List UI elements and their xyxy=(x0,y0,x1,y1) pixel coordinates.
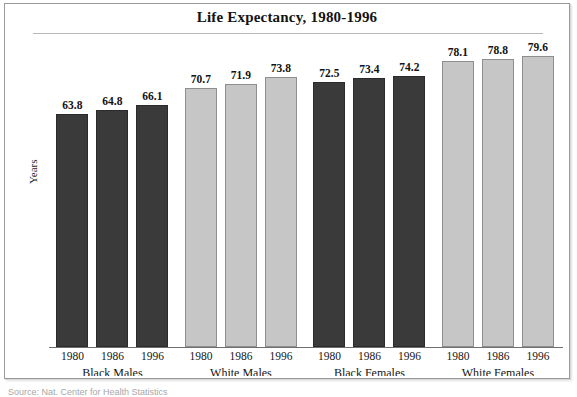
x-tick-label: 1986 xyxy=(96,350,128,362)
bar-value-label: 78.1 xyxy=(438,46,478,58)
y-axis-label: Years xyxy=(27,160,39,184)
x-tick-row: 198019861996 xyxy=(442,350,554,362)
bar[interactable] xyxy=(353,78,385,347)
bar[interactable] xyxy=(482,59,514,347)
bar[interactable] xyxy=(56,114,88,347)
chart-title: Life Expectancy, 1980-1996 xyxy=(5,9,569,26)
title-divider xyxy=(33,33,543,34)
x-tick-label: 1996 xyxy=(393,350,425,362)
x-tick-row: 198019861996 xyxy=(313,350,425,362)
bar[interactable] xyxy=(225,84,257,347)
bar-group-black-females: 72.573.474.2 xyxy=(313,36,425,347)
bar-item[interactable]: 73.4 xyxy=(353,36,385,347)
bar-item[interactable]: 66.1 xyxy=(136,36,168,347)
bar-item[interactable]: 70.7 xyxy=(185,36,217,347)
bar-item[interactable]: 64.8 xyxy=(96,36,128,347)
x-tick-row: 198019861996 xyxy=(185,350,297,362)
bar-value-label: 74.2 xyxy=(389,61,429,73)
x-tick-label: 1996 xyxy=(136,350,168,362)
bar[interactable] xyxy=(185,88,217,347)
bar-value-label: 72.5 xyxy=(309,67,349,79)
bar[interactable] xyxy=(96,110,128,347)
x-tick-row: 198019861996 xyxy=(56,350,168,362)
group-label: White Females xyxy=(442,366,554,381)
x-tick-label: 1986 xyxy=(225,350,257,362)
bar-item[interactable]: 63.8 xyxy=(56,36,88,347)
bar-value-label: 71.9 xyxy=(221,69,261,81)
x-tick-label: 1980 xyxy=(56,350,88,362)
bar-group-black-males: 63.864.866.1 xyxy=(56,36,168,347)
bar[interactable] xyxy=(442,61,474,347)
chart-figure-frame: Life Expectancy, 1980-1996 Years 63.864.… xyxy=(4,3,570,379)
bar-item[interactable]: 79.6 xyxy=(522,36,554,347)
bar-item[interactable]: 72.5 xyxy=(313,36,345,347)
bar-group-white-males: 70.771.973.8 xyxy=(185,36,297,347)
bar[interactable] xyxy=(393,76,425,347)
bar-item[interactable]: 74.2 xyxy=(393,36,425,347)
x-tick-label: 1980 xyxy=(313,350,345,362)
x-tick-label: 1980 xyxy=(442,350,474,362)
bar-value-label: 70.7 xyxy=(181,73,221,85)
bar-value-label: 66.1 xyxy=(132,90,172,102)
bar-item[interactable]: 71.9 xyxy=(225,36,257,347)
x-tick-label: 1996 xyxy=(265,350,297,362)
source-note: Source: Nat. Center for Health Statistic… xyxy=(8,387,168,397)
bar-group-white-females: 78.178.879.6 xyxy=(442,36,554,347)
bar[interactable] xyxy=(522,56,554,347)
group-label: Black Females xyxy=(313,366,425,381)
x-tick-label: 1986 xyxy=(482,350,514,362)
bar[interactable] xyxy=(265,77,297,347)
bar-value-label: 64.8 xyxy=(92,95,132,107)
bar-value-label: 79.6 xyxy=(518,41,558,53)
bar-item[interactable]: 78.1 xyxy=(442,36,474,347)
x-tick-label: 1986 xyxy=(353,350,385,362)
bar-value-label: 78.8 xyxy=(478,44,518,56)
bar-value-label: 63.8 xyxy=(52,99,92,111)
x-axis-baseline xyxy=(49,347,563,348)
bar-value-label: 73.4 xyxy=(349,63,389,75)
group-label: Black Males xyxy=(56,366,168,381)
x-tick-label: 1996 xyxy=(522,350,554,362)
x-tick-label: 1980 xyxy=(185,350,217,362)
bar[interactable] xyxy=(313,82,345,347)
bar-value-label: 73.8 xyxy=(261,62,301,74)
group-label: White Males xyxy=(185,366,297,381)
bar-item[interactable]: 73.8 xyxy=(265,36,297,347)
bar[interactable] xyxy=(136,105,168,347)
bar-item[interactable]: 78.8 xyxy=(482,36,514,347)
